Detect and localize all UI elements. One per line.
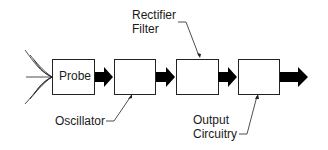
output-leader-line <box>239 96 257 134</box>
field-lines-icon <box>25 50 52 104</box>
oscillator-block <box>115 60 156 95</box>
arrow-icon <box>280 67 308 87</box>
arrow-icon <box>95 67 113 87</box>
rectifier-leader-line <box>178 22 199 56</box>
output-circuitry-block <box>239 60 280 95</box>
block-diagram <box>0 0 328 150</box>
arrowhead-icon <box>197 53 201 58</box>
arrow-icon <box>156 67 175 87</box>
arrow-icon <box>218 67 237 87</box>
circuitry-label: Circuitry <box>193 127 237 141</box>
rectifier-filter-block <box>177 60 219 95</box>
probe-label: Probe <box>59 69 91 83</box>
output-label: Output <box>193 113 229 127</box>
oscillator-label: Oscillator <box>55 114 105 128</box>
filter-label: Filter <box>132 22 159 36</box>
rectifier-label: Rectifier <box>132 8 176 22</box>
oscillator-leader-line <box>106 96 131 121</box>
